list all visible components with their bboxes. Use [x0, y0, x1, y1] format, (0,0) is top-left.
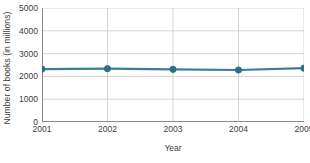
- data-point-marker: [170, 66, 176, 72]
- vertical-gridlines: [108, 8, 305, 122]
- y-axis-tick-label: 4000: [19, 26, 38, 36]
- y-axis-tick-label: 2000: [19, 71, 38, 81]
- y-axis-tick-labels: 010002000300040005000: [14, 0, 40, 130]
- data-point-marker: [104, 66, 110, 72]
- plot-area: [42, 8, 304, 122]
- line-chart: Number of books (in millions) 0100020003…: [0, 0, 310, 163]
- y-axis-title: Number of books (in millions): [0, 0, 14, 135]
- x-axis-tick-labels: 20012002200320042005: [42, 124, 304, 138]
- plot-svg: [42, 8, 304, 122]
- x-axis-tick-label: 2002: [98, 124, 117, 134]
- x-axis-tick-label: 2004: [229, 124, 248, 134]
- data-point-marker: [235, 67, 241, 73]
- x-axis-tick-label: 2005: [295, 124, 310, 134]
- data-point-marker: [301, 65, 304, 71]
- x-axis-tick-label: 2003: [164, 124, 183, 134]
- y-axis-title-text: Number of books (in millions): [2, 11, 12, 124]
- x-axis-tick-label: 2001: [33, 124, 52, 134]
- y-axis-tick-label: 5000: [19, 3, 38, 13]
- y-axis-tick-label: 1000: [19, 94, 38, 104]
- y-axis-tick-label: 3000: [19, 49, 38, 59]
- data-point-marker: [42, 66, 45, 72]
- x-axis-title: Year: [42, 143, 304, 153]
